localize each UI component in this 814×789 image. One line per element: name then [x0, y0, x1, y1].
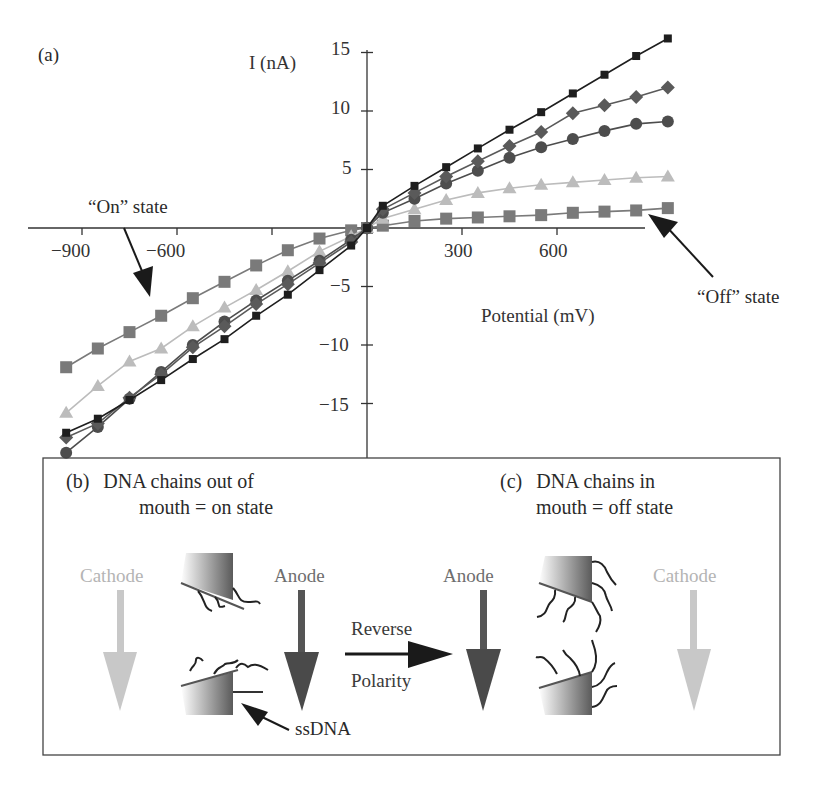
y-tick-15: 15	[331, 38, 350, 60]
panel-b-label: (b)	[66, 470, 89, 492]
mouth-upper-c	[537, 556, 616, 632]
data-point	[630, 204, 642, 216]
data-point	[472, 211, 484, 223]
data-point	[126, 396, 134, 404]
y-tick-neg10: −10	[319, 334, 349, 356]
anode-arrow-b	[284, 590, 319, 711]
data-point	[123, 354, 137, 366]
data-point	[534, 125, 548, 139]
data-point	[664, 34, 672, 42]
data-point	[661, 170, 675, 182]
cathode-arrow-b	[103, 590, 137, 711]
data-point	[60, 361, 72, 373]
data-point	[569, 89, 577, 97]
data-point	[314, 233, 326, 245]
cathode-label-c: Cathode	[653, 565, 716, 587]
data-point	[59, 406, 73, 418]
data-point	[154, 342, 168, 354]
data-point	[504, 152, 516, 164]
data-point	[503, 139, 517, 153]
panel-a-label: (a)	[38, 44, 59, 66]
data-point	[535, 209, 547, 221]
data-point	[598, 98, 612, 112]
ssdna-label: ssDNA	[295, 718, 351, 740]
data-point	[91, 379, 105, 391]
data-point	[535, 141, 547, 153]
y-tick-neg5: −5	[330, 275, 350, 297]
data-point	[661, 81, 675, 95]
data-point	[219, 276, 231, 288]
polarity-label: Polarity	[351, 670, 411, 692]
data-point	[506, 126, 514, 134]
data-point	[221, 335, 229, 343]
x-tick-neg900: −900	[51, 240, 90, 262]
y-axis-title: I (nA)	[249, 52, 296, 74]
data-point	[186, 319, 200, 331]
data-point	[630, 118, 642, 130]
ssdna-pointer-arrow	[241, 703, 289, 730]
data-point	[250, 259, 262, 271]
data-point	[249, 283, 263, 295]
data-point	[347, 242, 355, 250]
y-tick-10: 10	[331, 97, 350, 119]
data-point	[157, 376, 165, 384]
data-point	[94, 415, 102, 423]
data-point	[363, 224, 371, 232]
data-point	[281, 264, 295, 276]
data-point	[662, 116, 674, 128]
panel-b-title-line2: mouth = on state	[139, 496, 273, 518]
cathode-arrow-c	[677, 590, 711, 711]
data-point	[474, 144, 482, 152]
y-tick-5: 5	[342, 157, 352, 179]
data-point	[440, 213, 452, 225]
anode-label-b: Anode	[274, 565, 325, 587]
data-point	[504, 210, 516, 222]
data-point	[566, 106, 580, 120]
mouth-lower-c	[536, 640, 617, 715]
data-point	[662, 202, 674, 214]
mouth-upper-b	[181, 553, 260, 611]
data-point	[218, 301, 232, 313]
x-tick-600: 600	[539, 240, 568, 262]
data-point	[316, 266, 324, 274]
panel-b-title-line1: DNA chains out of	[103, 470, 254, 492]
x-tick-300: 300	[444, 240, 473, 262]
data-point	[411, 182, 419, 190]
data-point	[92, 343, 104, 355]
data-point	[599, 206, 611, 218]
data-point	[155, 310, 167, 322]
cathode-label-b: Cathode	[80, 565, 143, 587]
data-point	[442, 163, 450, 171]
panel-c-title: (c)DNA chains in mouth = off state	[500, 468, 673, 520]
x-tick-neg600: −600	[146, 240, 185, 262]
data-point	[189, 355, 197, 363]
data-point	[284, 291, 292, 299]
data-point	[567, 207, 579, 219]
data-point	[187, 292, 199, 304]
y-tick-neg15: −15	[319, 394, 349, 416]
data-point	[379, 202, 387, 210]
data-point	[60, 447, 72, 459]
x-axis-title: Potential (mV)	[481, 305, 594, 327]
data-point	[282, 244, 294, 256]
data-point	[62, 429, 70, 437]
panel-c-label: (c)	[500, 470, 522, 492]
reverse-label: Reverse	[351, 618, 412, 640]
panel-b-title: (b)DNA chains out of mouth = on state	[66, 468, 273, 520]
data-point	[629, 171, 643, 183]
on-state-arrow	[124, 228, 153, 297]
data-point	[601, 71, 609, 79]
mouth-lower-b	[181, 658, 268, 715]
data-point	[409, 215, 421, 227]
off-state-arrow	[648, 214, 713, 277]
data-point	[252, 312, 260, 320]
data-point	[471, 154, 485, 168]
data-point	[599, 125, 611, 137]
panel-c-title-line1: DNA chains in	[536, 470, 655, 492]
data-point	[537, 108, 545, 116]
data-point	[567, 133, 579, 145]
anode-label-c: Anode	[443, 565, 494, 587]
data-point	[629, 90, 643, 104]
on-state-annotation: “On” state	[88, 196, 168, 218]
panel-c-title-line2: mouth = off state	[536, 496, 673, 518]
